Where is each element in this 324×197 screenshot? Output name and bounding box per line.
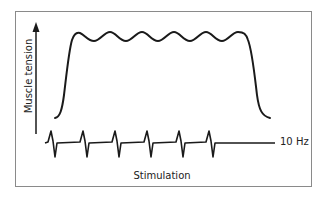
y-axis-arrow-icon — [33, 22, 40, 134]
stimulation-trace — [45, 131, 275, 157]
tension-curve — [55, 32, 270, 118]
y-axis-label: Muscle tension — [23, 39, 34, 114]
x-axis-label: Stimulation — [133, 170, 190, 181]
frequency-label: 10 Hz — [280, 136, 309, 147]
diagram-plot — [0, 0, 324, 197]
